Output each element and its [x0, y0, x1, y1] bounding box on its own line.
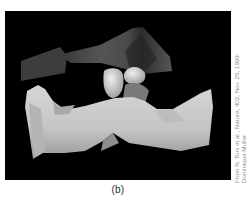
presynaptic-bouton	[21, 27, 172, 81]
dendritic-shaft	[25, 85, 213, 159]
credit-author: Dominique Muller	[240, 23, 247, 183]
image-credit: From N. Toni et al., Nature, 402, Nov. 2…	[233, 23, 247, 183]
figure-image	[5, 11, 231, 180]
credit-citation: From N. Toni et al., Nature, 402, Nov. 2…	[233, 23, 240, 183]
synapse-reconstruction-graphic	[5, 11, 231, 180]
panel-label: (b)	[0, 184, 236, 195]
